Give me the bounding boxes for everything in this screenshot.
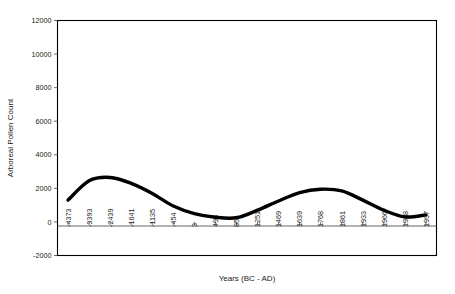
x-tick-label: 1251 [253, 211, 262, 227]
x-tick-label: 1861 [338, 211, 347, 227]
x-tick-label: 3 [190, 223, 199, 227]
x-axis-title: Years (BC - AD) [219, 274, 276, 283]
y-tick-label: 6000 [36, 117, 52, 126]
pollen-count-chart: 120001000080006000400020000-2000 -4373-3… [0, 0, 455, 294]
x-tick-label: -3393 [85, 209, 94, 227]
x-tick-label: 1469 [274, 211, 283, 227]
x-tick-label: 1639 [295, 211, 304, 227]
x-tick-label: 1768 [316, 211, 325, 227]
x-tick-label: -1641 [127, 209, 136, 227]
y-axis-title: Arboreal Pollen Count [6, 98, 15, 177]
y-tick-label: 0 [48, 218, 52, 227]
y-tick-label: 10000 [32, 50, 52, 59]
y-tick-label: -2000 [33, 251, 51, 260]
y-tick-label: 4000 [36, 150, 52, 159]
x-tick-label: -4373 [64, 209, 73, 227]
x-tick-label: 1933 [359, 211, 368, 227]
y-tick-label: 8000 [36, 83, 52, 92]
y-tick-label: 2000 [36, 184, 52, 193]
y-tick-label: 12000 [32, 16, 52, 25]
x-tick-label: 1988 [401, 211, 410, 227]
chart-svg: 120001000080006000400020000-2000 -4373-3… [0, 0, 455, 294]
x-tick-label: -2439 [106, 209, 115, 227]
x-tick-label: -1135 [148, 209, 157, 227]
x-tick-label: -454 [169, 213, 178, 227]
